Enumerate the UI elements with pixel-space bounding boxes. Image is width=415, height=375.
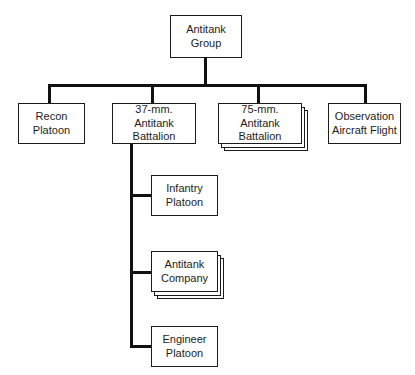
node-37mm-antitank-battalion[interactable]: 37-mm. Antitank Battalion bbox=[112, 103, 196, 144]
node-recon-platoon[interactable]: Recon Platoon bbox=[18, 103, 85, 144]
connector-branch-infantry-platoon bbox=[130, 194, 151, 197]
node-observation-aircraft-flight[interactable]: Observation Aircraft Flight bbox=[328, 103, 401, 144]
node-observation-aircraft-flight-label: Observation Aircraft Flight bbox=[329, 110, 400, 138]
connector-drop-observation bbox=[364, 84, 367, 103]
connector-branch-antitank-company bbox=[130, 271, 151, 274]
node-antitank-group[interactable]: Antitank Group bbox=[170, 15, 242, 58]
node-antitank-company[interactable]: Antitank Company bbox=[151, 251, 218, 292]
node-infantry-platoon-label: Infantry Platoon bbox=[163, 182, 206, 210]
node-75mm-antitank-battalion[interactable]: 75-mm. Antitank Battalion bbox=[218, 103, 302, 144]
connector-37mm-spine bbox=[130, 144, 133, 348]
node-engineer-platoon[interactable]: Engineer Platoon bbox=[151, 326, 218, 367]
connector-branch-engineer-platoon bbox=[130, 345, 151, 348]
connector-drop-75mm bbox=[257, 84, 260, 103]
node-antitank-company-label: Antitank Company bbox=[158, 258, 211, 286]
node-antitank-group-label: Antitank Group bbox=[183, 23, 229, 51]
connector-drop-recon bbox=[48, 84, 51, 103]
connector-level1-bus bbox=[48, 84, 366, 87]
node-infantry-platoon[interactable]: Infantry Platoon bbox=[151, 175, 218, 216]
node-engineer-platoon-label: Engineer Platoon bbox=[159, 333, 209, 361]
node-recon-platoon-label: Recon Platoon bbox=[30, 110, 73, 138]
node-75mm-antitank-battalion-label: 75-mm. Antitank Battalion bbox=[219, 103, 301, 144]
node-37mm-antitank-battalion-label: 37-mm. Antitank Battalion bbox=[113, 103, 195, 144]
connector-drop-37mm bbox=[151, 84, 154, 103]
connector-root-stem bbox=[204, 58, 207, 85]
org-chart-diagram: Recon Platoon 37-mm. Antitank Battalion … bbox=[0, 0, 415, 375]
